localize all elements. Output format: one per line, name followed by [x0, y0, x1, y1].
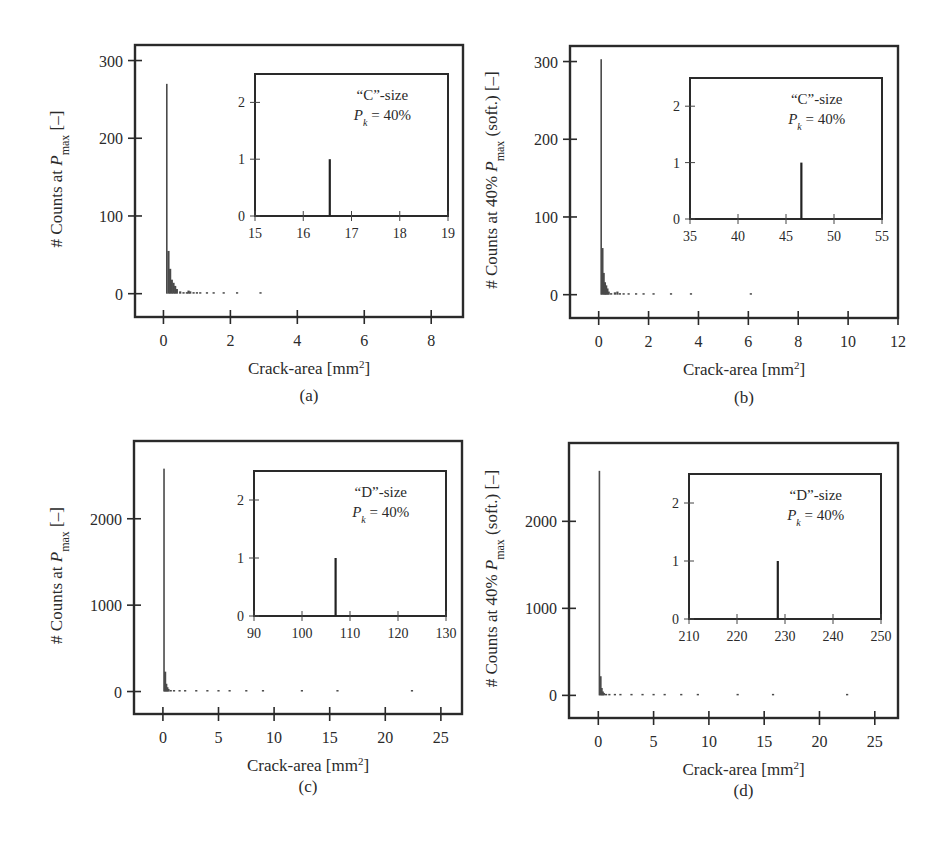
histogram-bar — [245, 690, 247, 692]
histogram-bar — [623, 293, 625, 295]
histogram-bar — [614, 694, 616, 696]
histogram-bar — [176, 289, 178, 294]
inset-chart: 012210220230240250“D”-sizePk = 40% — [672, 474, 892, 644]
x-tick-label: 0 — [595, 333, 603, 350]
y-tick-label: 100 — [99, 208, 123, 225]
inset-x-tick-label: 16 — [296, 226, 310, 241]
x-tick-label: 10 — [266, 729, 282, 746]
inset-chart: 0121516171819“C”-sizePk = 40% — [238, 74, 455, 241]
inset-frame — [254, 471, 446, 616]
x-tick-label: 12 — [890, 333, 906, 350]
y-axis-label: # Counts at 40% Pmax (soft.) [–] — [482, 71, 507, 289]
chart-panel-c: 0100020000510152025Crack-area [mm2]# Cou… — [47, 441, 462, 796]
inset-x-tick-label: 19 — [441, 226, 455, 241]
x-tick-label: 25 — [433, 729, 449, 746]
x-tick-label: 5 — [650, 733, 658, 750]
histogram-bar — [163, 469, 165, 692]
histogram-bar — [199, 292, 201, 294]
x-tick-label: 8 — [794, 333, 802, 350]
histogram-bar — [653, 694, 655, 696]
x-tick-label: 4 — [293, 332, 301, 349]
inset-x-tick-label: 15 — [248, 226, 262, 241]
y-tick-label: 0 — [115, 286, 123, 303]
histogram-bar — [213, 292, 215, 294]
inset-y-tick-label: 2 — [238, 95, 245, 110]
histogram-bar — [179, 291, 181, 293]
x-tick-label: 20 — [377, 729, 393, 746]
inset-y-tick-label: 1 — [238, 152, 245, 167]
y-tick-label: 0 — [550, 287, 558, 304]
histogram-bar — [635, 293, 637, 295]
histogram-bar — [223, 292, 225, 294]
inset-y-tick-label: 0 — [672, 612, 679, 627]
x-tick-label: 2 — [645, 333, 653, 350]
y-tick-label: 300 — [99, 53, 123, 70]
inset-x-tick-label: 17 — [345, 226, 359, 241]
histogram-bar — [195, 690, 197, 692]
x-tick-label: 20 — [811, 733, 827, 750]
histogram-bar — [608, 694, 610, 696]
inset-size-label: “D”-size — [354, 484, 407, 500]
histogram-bar — [641, 694, 643, 696]
y-tick-label: 0 — [549, 687, 557, 704]
histogram-bar — [664, 694, 666, 696]
histogram-bar — [846, 694, 848, 696]
inset-frame — [255, 74, 448, 216]
inset-frame — [689, 474, 881, 619]
x-tick-label: 0 — [159, 729, 167, 746]
inset-y-tick-label: 0 — [237, 609, 244, 624]
histogram-bar — [182, 292, 184, 294]
y-tick-label: 2000 — [90, 511, 122, 528]
panel-caption: (d) — [734, 781, 754, 800]
inset-y-tick-label: 2 — [673, 99, 680, 114]
inset-x-tick-label: 18 — [393, 226, 407, 241]
figure: 010020030002468Crack-area [mm2]# Counts … — [0, 0, 945, 846]
histogram-bar — [217, 690, 219, 692]
histogram-bar — [336, 690, 338, 692]
inset-x-tick-label: 120 — [388, 626, 409, 641]
histogram-bar — [192, 292, 194, 294]
histogram-bar — [173, 690, 175, 692]
inset-y-tick-label: 2 — [237, 493, 244, 508]
panel-caption: (b) — [734, 388, 754, 407]
inset-x-tick-label: 250 — [871, 629, 892, 644]
y-tick-label: 0 — [114, 684, 122, 701]
inset-frame — [690, 78, 882, 219]
histogram-bar — [411, 690, 413, 692]
inset-chart: 0123540455055“C”-sizePk = 40% — [673, 78, 889, 244]
histogram-bar — [750, 293, 752, 295]
panel-caption: (c) — [299, 777, 318, 796]
histogram-bar — [166, 84, 168, 294]
histogram-bar — [619, 293, 621, 295]
histogram-bar — [178, 690, 180, 692]
inset-size-label: “C”-size — [357, 87, 409, 103]
histogram-bar — [652, 293, 654, 295]
histogram-bar — [599, 471, 601, 696]
histogram-bar — [697, 694, 699, 696]
histogram-bar — [680, 694, 682, 696]
x-tick-label: 2 — [226, 332, 234, 349]
inset-y-tick-label: 2 — [672, 496, 679, 511]
histogram-bar — [670, 293, 672, 295]
x-axis-label: Crack-area [mm2] — [683, 359, 805, 379]
x-tick-label: 15 — [322, 729, 338, 746]
inset-size-label: “D”-size — [789, 487, 842, 503]
inset-x-tick-label: 230 — [775, 629, 796, 644]
y-tick-label: 200 — [99, 130, 123, 147]
histogram-bar — [628, 293, 630, 295]
y-axis-label: # Counts at Pmax [–] — [47, 111, 72, 248]
x-tick-label: 0 — [159, 332, 167, 349]
histogram-bar — [301, 690, 303, 692]
y-tick-label: 300 — [534, 54, 558, 71]
inset-x-tick-label: 110 — [340, 626, 360, 641]
histogram-bar — [610, 293, 612, 295]
histogram-bar — [189, 291, 191, 293]
y-tick-label: 1000 — [90, 597, 122, 614]
histogram-bar — [603, 693, 605, 695]
histogram-bar — [608, 292, 610, 295]
histogram-bar — [642, 293, 644, 295]
x-tick-label: 6 — [744, 333, 752, 350]
inset-x-tick-label: 210 — [679, 629, 700, 644]
x-tick-label: 5 — [215, 729, 223, 746]
inset-x-tick-label: 50 — [827, 229, 841, 244]
